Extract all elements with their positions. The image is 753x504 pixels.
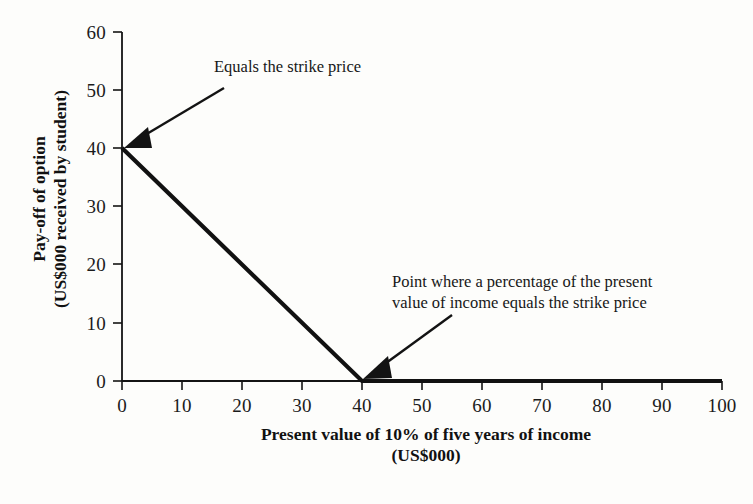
x-axis-title-line1: Present value of 10% of five years of in… (126, 424, 726, 445)
x-tick-label: 70 (532, 395, 551, 416)
x-tick-label: 10 (172, 395, 191, 416)
x-tick-label: 80 (592, 395, 611, 416)
x-axis-title: Present value of 10% of five years of in… (126, 424, 726, 466)
x-axis-tick-labels: 0 10 20 30 40 50 60 70 80 90 100 (117, 395, 736, 416)
y-axis-title-line2: (US$000 received by student) (50, 9, 71, 389)
annotation-strike-price-line1: Equals the strike price (214, 57, 361, 78)
annotation-leader-percentage-point (363, 315, 452, 379)
y-axis-ticks (113, 32, 122, 381)
annotation-percentage-point-line1: Point where a percentage of the present (392, 272, 652, 293)
x-tick-label: 90 (652, 395, 671, 416)
y-axis-title-line1: Pay-off of option (29, 9, 50, 389)
arrow-head-icon (124, 127, 152, 148)
x-tick-label: 0 (117, 395, 127, 416)
y-axis-title: Pay-off of option (US$000 received by st… (29, 9, 71, 389)
x-tick-label: 20 (232, 395, 251, 416)
x-tick-label: 30 (292, 395, 311, 416)
x-axis-title-line2: (US$000) (126, 445, 726, 466)
x-tick-label: 50 (412, 395, 431, 416)
annotation-leader-strike-price (124, 88, 224, 148)
x-tick-label: 60 (472, 395, 491, 416)
x-tick-label: 40 (352, 395, 371, 416)
y-axis-title-wrapper: Pay-off of option (US$000 received by st… (0, 0, 100, 400)
chart-figure: 0 10 20 30 40 50 60 0 10 20 30 40 50 60 … (0, 0, 753, 504)
annotation-percentage-point: Point where a percentage of the present … (392, 272, 652, 313)
payoff-series-line (122, 148, 722, 381)
annotation-percentage-point-line2: value of income equals the strike price (392, 293, 652, 314)
arrow-head-icon (363, 356, 392, 379)
annotation-strike-price: Equals the strike price (214, 57, 361, 78)
x-tick-label: 100 (707, 395, 736, 416)
